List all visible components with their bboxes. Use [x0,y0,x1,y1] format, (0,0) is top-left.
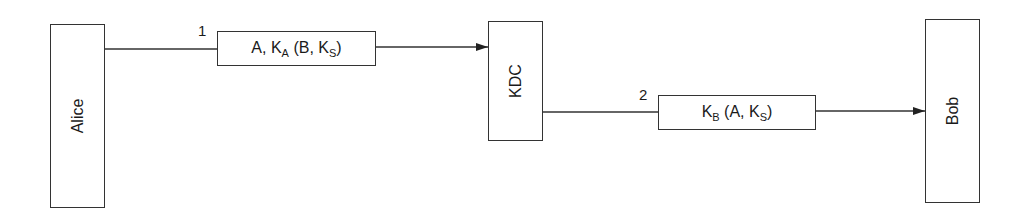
entity-label: Bob [944,97,962,125]
message-text: A, KA (B, KS) [251,39,341,59]
entity-kdc: KDC [488,21,543,141]
message-text: KB (A, KS) [702,103,773,123]
message-1-box: A, KA (B, KS) [217,31,376,66]
entity-label: KDC [507,64,525,98]
step-number-1: 1 [198,22,206,39]
step-number-2: 2 [639,86,647,103]
entity-alice: Alice [50,24,105,208]
entity-bob: Bob [925,19,980,203]
entity-label: Alice [69,99,87,134]
message-2-box: KB (A, KS) [658,95,816,130]
